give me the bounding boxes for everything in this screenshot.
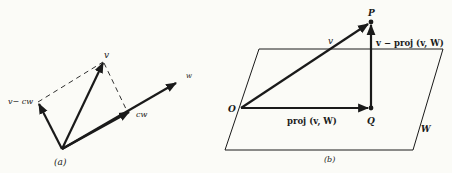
- figure-a: v v− cw cw w (a): [8, 50, 192, 167]
- label-O: O: [228, 104, 236, 114]
- label-plane-w: W: [421, 124, 432, 134]
- label-v: v: [104, 50, 109, 60]
- label-proj: proj (v, W): [287, 116, 337, 127]
- dashed-line-v-to-cw: [104, 63, 127, 111]
- vector-projection-diagram: v v− cw cw w (a) P O Q v v − proj (v, W)…: [0, 0, 452, 173]
- caption-a: (a): [54, 157, 67, 167]
- point-Q: [369, 106, 374, 111]
- label-w: w: [186, 72, 192, 80]
- point-P: [369, 20, 374, 25]
- vector-cw: [62, 112, 129, 149]
- plane-w: [225, 49, 443, 150]
- label-v-minus-cw: v− cw: [8, 97, 33, 106]
- label-v-b: v: [328, 36, 333, 46]
- vector-v-minus-cw: [39, 104, 62, 149]
- label-Q: Q: [367, 116, 375, 126]
- caption-b: (b): [324, 155, 335, 164]
- vector-v-oP: [241, 24, 368, 108]
- label-cw: cw: [136, 110, 147, 119]
- label-v-minus-proj: v − proj (v, W): [375, 38, 444, 49]
- figure-b: P O Q v v − proj (v, W) proj (v, W) W (b…: [225, 8, 444, 164]
- label-P: P: [367, 8, 375, 18]
